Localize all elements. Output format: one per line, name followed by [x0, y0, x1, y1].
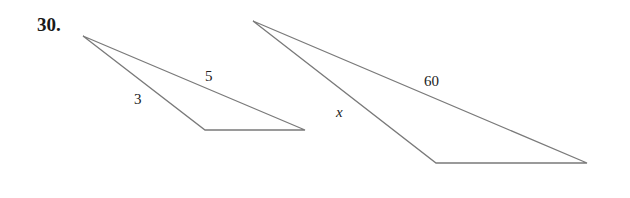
similar-triangles-figure: 3 5 60 x	[0, 0, 630, 198]
small-triangle	[83, 36, 305, 130]
large-triangle	[253, 21, 587, 163]
side-label-3: 3	[134, 91, 142, 107]
side-label-60: 60	[424, 73, 439, 89]
side-label-5: 5	[205, 68, 213, 84]
side-label-x: x	[335, 104, 343, 120]
